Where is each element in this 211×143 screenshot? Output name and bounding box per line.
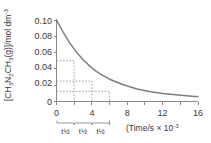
y-axis-title: [CH3N2CH3(g)]/mol dm-3 — [2, 9, 14, 101]
x-tick-label-8: 8 — [125, 108, 130, 118]
y-tick-label-0.04: 0.04 — [34, 62, 52, 72]
y-tick-label-0.02: 0.02 — [34, 78, 52, 88]
x-axis-title: (Time/s × 10-3 — [126, 122, 179, 133]
y-tick-label-0.06: 0.06 — [34, 47, 52, 57]
svg-text:(Time/s × 10-3: (Time/s × 10-3 — [126, 122, 179, 133]
x-tick-label-0: 0 — [54, 108, 59, 118]
x-tick-label-12: 12 — [158, 108, 168, 118]
decay-curve — [57, 20, 199, 97]
svg-text:[CH3N2CH3(g)]/mol dm-3: [CH3N2CH3(g)]/mol dm-3 — [2, 9, 14, 101]
guide-third-half-life — [57, 91, 110, 101]
half-life-label-1: t½ — [61, 127, 70, 136]
chart-canvas: [CH3N2CH3(g)]/mol dm-3 0.10 0.08 0.06 0.… — [0, 0, 211, 143]
half-life-label-2: t½ — [79, 127, 88, 136]
x-tick-label-4: 4 — [89, 108, 94, 118]
kinetics-decay-chart: [CH3N2CH3(g)]/mol dm-3 0.10 0.08 0.06 0.… — [0, 0, 211, 143]
x-tick-label-16: 16 — [193, 108, 203, 118]
guide-first-half-life — [57, 61, 75, 102]
half-life-guides — [57, 61, 110, 102]
half-life-label-3: t½ — [97, 127, 106, 136]
half-life-bracket — [57, 121, 110, 126]
y-tick-label-0.08: 0.08 — [34, 31, 52, 41]
y-tick-label-0.10: 0.10 — [34, 16, 52, 26]
y-tick-label-0: 0 — [47, 97, 52, 107]
